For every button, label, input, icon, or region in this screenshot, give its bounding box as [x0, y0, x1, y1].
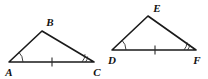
vertex-label-b: B	[45, 16, 53, 28]
triangle-def: D E F	[107, 2, 201, 66]
vertex-label-c: C	[93, 66, 101, 78]
angle-arc-d-1	[122, 40, 126, 50]
vertex-label-e: E	[152, 2, 160, 14]
triangle-def-outline	[112, 16, 196, 50]
figure-canvas: A B C D E F	[0, 0, 208, 79]
vertex-label-f: F	[192, 54, 201, 66]
vertex-label-a: A	[4, 66, 12, 78]
geometry-figure: A B C D E F	[0, 0, 208, 79]
triangle-abc: A B C	[4, 16, 101, 78]
vertex-label-d: D	[107, 54, 116, 66]
